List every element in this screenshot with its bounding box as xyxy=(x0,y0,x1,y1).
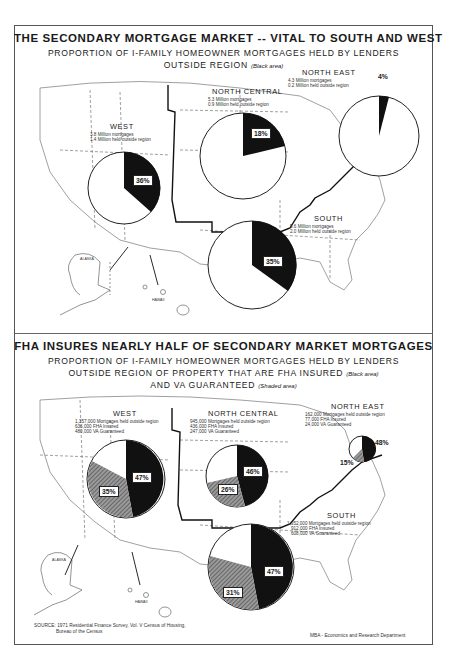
bottom-nc-line3: 247,000 VA Guaranteed xyxy=(190,429,279,434)
bottom-legend-note-fha: (Black area) xyxy=(346,371,378,377)
bottom-west-label: WEST 1,357,000 Mortgages held outside re… xyxy=(75,410,159,434)
top-hawaii-label: HAWAII xyxy=(152,298,165,302)
bottom-south-label: SOUTH 1,952,000 Mortgages held outside r… xyxy=(287,512,371,536)
source-line-2: Bureau of the Census xyxy=(34,629,186,635)
top-west-line2: 1.4 Million held outside region xyxy=(90,137,151,142)
bottom-subtitle-3: AND VA GUARANTEED (Shaded area) xyxy=(14,380,433,390)
bottom-subtitle-2: OUTSIDE REGION OF PROPERTY THAT ARE FHA … xyxy=(14,368,433,378)
top-ne-label: NORTH EAST 4.3 Million mortgages 0.2 Mil… xyxy=(288,69,356,88)
bottom-subtitle-2-text: OUTSIDE REGION OF PROPERTY THAT ARE FHA … xyxy=(68,368,343,378)
bottom-hawaii-label: HAWAII xyxy=(135,600,148,604)
bottom-south-fha-pct: 47% xyxy=(264,566,284,577)
bottom-west-fha-pct: 47% xyxy=(132,472,152,483)
bottom-south-va-pct: 31% xyxy=(223,587,243,598)
bottom-ne-label: NORTH EAST 162,000 Mortgages held outsid… xyxy=(305,403,385,427)
top-south-name: SOUTH xyxy=(290,215,351,224)
top-ne-line2: 0.2 Million held outside region xyxy=(288,83,356,88)
bottom-west-name: WEST xyxy=(75,410,159,419)
bottom-alaska-hawaii xyxy=(34,545,171,617)
top-west-label: WEST 3.8 Million mortgages 1.4 Million h… xyxy=(90,123,151,142)
top-nc-name: NORTH CENTRAL xyxy=(208,88,283,97)
top-west-pct: 36% xyxy=(133,175,153,186)
pie-top-south xyxy=(208,221,297,309)
top-nc-line2: 0.9 Million held outside region xyxy=(208,102,283,107)
top-nc-label: NORTH CENTRAL 5.3 Million mortgages 0.9 … xyxy=(208,88,283,107)
bottom-subtitle-3-text: AND VA GUARANTEED xyxy=(150,380,255,390)
top-nc-pct: 18% xyxy=(251,128,271,139)
pie-top-west xyxy=(88,152,160,224)
bottom-legend-note-va: (Shaded area) xyxy=(258,383,296,389)
bottom-nc-fha-pct: 46% xyxy=(243,466,263,477)
bottom-subtitle-1: PROPORTION OF I-FAMILY HOMEOWNER MORTGAG… xyxy=(14,356,433,366)
top-south-line2: 2.0 Million held outside region xyxy=(290,229,351,234)
bottom-south-name: SOUTH xyxy=(287,512,371,521)
source-note: SOURCE: 1971 Residential Finance Survey,… xyxy=(34,623,186,635)
bottom-alaska-label: ALASKA xyxy=(52,558,66,562)
bottom-ne-fha-pct: 48% xyxy=(373,438,391,447)
bottom-west-line3: 480,000 VA Guaranteed xyxy=(75,429,159,434)
credit-note: MBA - Economics and Research Department xyxy=(310,633,405,639)
pie-top-north-central xyxy=(200,113,286,199)
top-south-label: SOUTH 5.6 Million mortgages 2.0 Million … xyxy=(290,215,351,234)
bottom-south-line3: 608,000 VA Guaranteed xyxy=(287,531,371,536)
bottom-west-va-pct: 35% xyxy=(99,486,119,497)
pie-bottom-west xyxy=(87,440,165,518)
top-south-pct: 35% xyxy=(263,256,283,267)
top-ne-name: NORTH EAST xyxy=(288,69,356,78)
top-alaska-label: ALASKA xyxy=(80,257,94,261)
bottom-nc-name: NORTH CENTRAL xyxy=(190,410,279,419)
pie-top-north-east xyxy=(339,96,419,176)
bottom-ne-va-pct: 15% xyxy=(338,458,356,467)
top-ne-pct: 4% xyxy=(376,72,390,81)
top-west-name: WEST xyxy=(90,123,151,132)
bottom-nc-va-pct: 26% xyxy=(218,484,238,495)
bottom-title: FHA INSURES NEARLY HALF OF SECONDARY MAR… xyxy=(14,340,433,352)
bottom-nc-label: NORTH CENTRAL 945,000 Mortgages held out… xyxy=(190,410,279,434)
bottom-ne-name: NORTH EAST xyxy=(305,403,385,412)
bottom-ne-line3: 24,000 VA Guaranteed xyxy=(305,422,385,427)
